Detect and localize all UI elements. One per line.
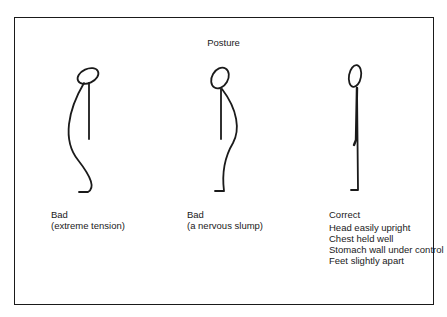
label-nervous-slump: Bad (a nervous slump)	[187, 209, 263, 231]
figure-correct	[347, 64, 363, 190]
figure-extreme-tension	[69, 65, 101, 192]
posture-figures	[0, 0, 447, 317]
label-extreme-tension: Bad (extreme tension)	[51, 209, 125, 231]
label-point-feet: Feet slightly apart	[329, 255, 444, 266]
head-icon	[347, 64, 363, 88]
label-point-head: Head easily upright	[329, 222, 444, 233]
label-correct: Correct Head easily upright Chest held w…	[329, 209, 444, 266]
head-icon	[75, 65, 101, 87]
label-heading: Bad	[187, 209, 263, 220]
label-heading: Correct	[329, 209, 444, 220]
label-heading: Bad	[51, 209, 125, 220]
body-curve	[215, 89, 237, 191]
figure-nervous-slump	[208, 64, 237, 191]
label-description: (a nervous slump)	[187, 220, 263, 231]
label-point-stomach: Stomach wall under control	[329, 244, 444, 255]
label-description: (extreme tension)	[51, 220, 125, 231]
head-icon	[208, 64, 233, 91]
body-line	[351, 88, 358, 190]
label-point-chest: Chest held well	[329, 233, 444, 244]
